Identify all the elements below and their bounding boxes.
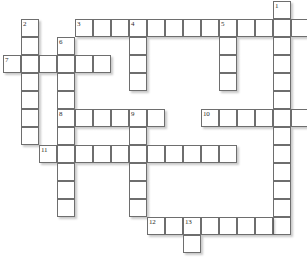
crossword-cell[interactable] — [219, 37, 237, 55]
crossword-cell-numbered-8[interactable]: 8 — [57, 109, 75, 127]
crossword-cell[interactable] — [291, 109, 307, 127]
crossword-cell[interactable] — [21, 37, 39, 55]
clue-number-4: 4 — [131, 20, 134, 28]
crossword-cell[interactable] — [165, 145, 183, 163]
crossword-cell[interactable] — [291, 19, 307, 37]
clue-number-3: 3 — [77, 20, 80, 28]
crossword-cell[interactable] — [111, 19, 129, 37]
crossword-cell-numbered-11[interactable]: 11 — [39, 145, 57, 163]
crossword-cell[interactable] — [219, 145, 237, 163]
crossword-cell[interactable] — [57, 127, 75, 145]
crossword-cell[interactable] — [219, 55, 237, 73]
clue-number-8: 8 — [59, 110, 62, 118]
crossword-cell[interactable] — [93, 109, 111, 127]
crossword-cell[interactable] — [237, 217, 255, 235]
crossword-cell[interactable] — [219, 109, 237, 127]
crossword-cell[interactable] — [21, 55, 39, 73]
crossword-cell[interactable] — [255, 19, 273, 37]
crossword-cell[interactable] — [93, 145, 111, 163]
crossword-cell[interactable] — [57, 73, 75, 91]
crossword-cell[interactable] — [129, 145, 147, 163]
clue-number-12: 12 — [149, 218, 156, 226]
crossword-cell[interactable] — [255, 109, 273, 127]
crossword-cell[interactable] — [237, 109, 255, 127]
crossword-cell[interactable] — [165, 217, 183, 235]
crossword-cell[interactable] — [219, 217, 237, 235]
crossword-cell[interactable] — [273, 145, 291, 163]
crossword-cell-numbered-13[interactable]: 13 — [183, 217, 201, 235]
clue-number-6: 6 — [59, 38, 62, 46]
crossword-cell[interactable] — [255, 217, 273, 235]
crossword-cell[interactable] — [57, 199, 75, 217]
crossword-cell[interactable] — [201, 145, 219, 163]
crossword-cell[interactable] — [273, 37, 291, 55]
crossword-cell[interactable] — [273, 127, 291, 145]
crossword-cell[interactable] — [129, 181, 147, 199]
crossword-cell[interactable] — [21, 73, 39, 91]
crossword-cell-numbered-6[interactable]: 6 — [57, 37, 75, 55]
clue-number-10: 10 — [203, 110, 210, 118]
crossword-cell[interactable] — [129, 163, 147, 181]
clue-number-13: 13 — [185, 218, 192, 226]
crossword-cell[interactable] — [165, 19, 183, 37]
crossword-cell[interactable] — [273, 181, 291, 199]
crossword-cell[interactable] — [183, 235, 201, 253]
crossword-cell[interactable] — [129, 37, 147, 55]
crossword-cell[interactable] — [75, 145, 93, 163]
crossword-cell[interactable] — [111, 145, 129, 163]
crossword-cell[interactable] — [219, 73, 237, 91]
crossword-cell[interactable] — [273, 19, 291, 37]
crossword-cell-numbered-5[interactable]: 5 — [219, 19, 237, 37]
crossword-cell[interactable] — [57, 163, 75, 181]
clue-number-7: 7 — [5, 56, 8, 64]
crossword-cell-numbered-7[interactable]: 7 — [3, 55, 21, 73]
crossword-cell[interactable] — [273, 109, 291, 127]
crossword-cell[interactable] — [147, 109, 165, 127]
clue-number-11: 11 — [41, 146, 47, 154]
crossword-cell[interactable] — [273, 91, 291, 109]
crossword-cell-numbered-9[interactable]: 9 — [129, 109, 147, 127]
crossword-cell[interactable] — [111, 109, 129, 127]
crossword-cell[interactable] — [273, 217, 291, 235]
crossword-cell[interactable] — [273, 73, 291, 91]
crossword-cell[interactable] — [57, 145, 75, 163]
clue-number-2: 2 — [23, 20, 26, 28]
crossword-cell[interactable] — [21, 91, 39, 109]
crossword-cell[interactable] — [129, 199, 147, 217]
crossword-cell[interactable] — [237, 19, 255, 37]
crossword-cell[interactable] — [21, 127, 39, 145]
crossword-cell[interactable] — [57, 181, 75, 199]
crossword-cell[interactable] — [21, 109, 39, 127]
crossword-cell-numbered-12[interactable]: 12 — [147, 217, 165, 235]
crossword-cell[interactable] — [147, 145, 165, 163]
crossword-cell[interactable] — [129, 127, 147, 145]
crossword-cell[interactable] — [57, 91, 75, 109]
crossword-cell-numbered-4[interactable]: 4 — [129, 19, 147, 37]
crossword-cell-numbered-2[interactable]: 2 — [21, 19, 39, 37]
crossword-cell[interactable] — [129, 55, 147, 73]
crossword-cell[interactable] — [273, 199, 291, 217]
crossword-cell[interactable] — [129, 73, 147, 91]
crossword-cell-numbered-3[interactable]: 3 — [75, 19, 93, 37]
crossword-cell[interactable] — [183, 145, 201, 163]
crossword-cell[interactable] — [93, 55, 111, 73]
crossword-cell[interactable] — [201, 19, 219, 37]
crossword-cell[interactable] — [93, 19, 111, 37]
crossword-cell[interactable] — [75, 109, 93, 127]
crossword-cell[interactable] — [273, 163, 291, 181]
crossword-cell[interactable] — [57, 55, 75, 73]
crossword-cell[interactable] — [39, 55, 57, 73]
crossword-cell[interactable] — [273, 55, 291, 73]
crossword-cell[interactable] — [183, 19, 201, 37]
clue-number-9: 9 — [131, 110, 134, 118]
crossword-cell[interactable] — [147, 19, 165, 37]
crossword-cell[interactable] — [75, 55, 93, 73]
clue-number-1: 1 — [275, 2, 278, 10]
crossword-cell-numbered-10[interactable]: 10 — [201, 109, 219, 127]
crossword-cell-numbered-1[interactable]: 1 — [273, 1, 291, 19]
crossword-grid[interactable]: 12345678910111213 — [0, 0, 307, 260]
crossword-cell[interactable] — [201, 217, 219, 235]
clue-number-5: 5 — [221, 20, 224, 28]
